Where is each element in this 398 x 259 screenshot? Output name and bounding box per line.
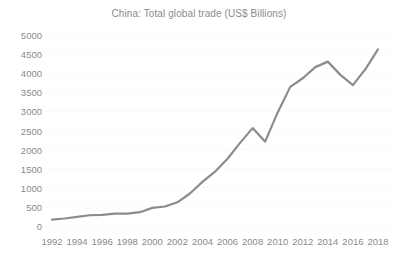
chart-container: China: Total global trade (US$ Billions)… xyxy=(0,0,398,259)
x-axis: 1992199419961998200020022004200620082010… xyxy=(0,0,398,259)
x-axis-tick-label: 2018 xyxy=(363,236,393,247)
